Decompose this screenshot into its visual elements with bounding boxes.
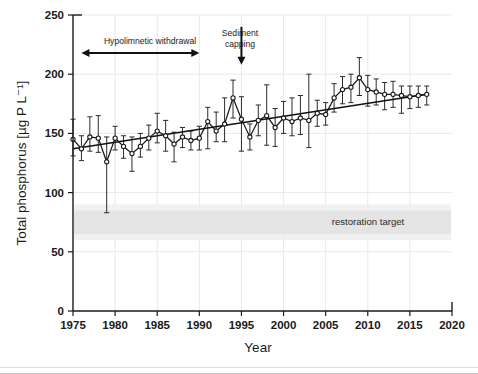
- x-tick-label: 2010: [355, 319, 381, 331]
- sediment-capping-label-line2: capping: [225, 39, 255, 49]
- data-point-marker: [307, 118, 311, 122]
- data-point-marker: [408, 95, 412, 99]
- chart-plot: 0501001502002501975198019851990199520002…: [0, 0, 478, 374]
- data-point-marker: [332, 96, 336, 100]
- data-point-marker: [130, 151, 134, 155]
- y-tick-label: 50: [51, 246, 64, 258]
- x-tick-label: 2020: [439, 319, 465, 331]
- chart-svg: 0501001502002501975198019851990199520002…: [0, 0, 478, 374]
- data-point-marker: [366, 87, 370, 91]
- data-point-marker: [138, 144, 142, 148]
- x-tick-label: 2000: [271, 319, 297, 331]
- x-tick-label: 1985: [144, 319, 170, 331]
- y-tick-label: 0: [58, 305, 64, 317]
- sediment-capping-label-line1: Sediment: [222, 28, 259, 38]
- data-point-marker: [180, 135, 184, 139]
- data-point-marker: [374, 90, 378, 94]
- data-point-marker: [273, 125, 277, 129]
- data-point-marker: [290, 119, 294, 123]
- data-point-marker: [121, 144, 125, 148]
- x-tick-label: 1980: [102, 319, 128, 331]
- data-point-marker: [147, 136, 151, 140]
- data-point-marker: [416, 93, 420, 97]
- data-point-marker: [281, 116, 285, 120]
- data-point-marker: [239, 117, 243, 121]
- data-point-marker: [399, 93, 403, 97]
- data-point-marker: [113, 136, 117, 140]
- x-tick-label: 2015: [397, 319, 423, 331]
- data-point-marker: [256, 118, 260, 122]
- data-point-marker: [189, 138, 193, 142]
- data-point-marker: [383, 92, 387, 96]
- data-point-marker: [79, 147, 83, 151]
- data-point-marker: [214, 129, 218, 133]
- x-tick-label: 2005: [313, 319, 339, 331]
- x-tick-label: 1995: [229, 319, 255, 331]
- data-point-marker: [172, 142, 176, 146]
- data-point-marker: [96, 136, 100, 140]
- data-point-marker: [357, 76, 361, 80]
- data-point-marker: [425, 92, 429, 96]
- hypolimnetic-withdrawal-label: Hypolimnetic withdrawal: [104, 36, 196, 46]
- data-point-marker: [265, 114, 269, 118]
- x-tick-label: 1990: [187, 319, 213, 331]
- y-tick-label: 150: [45, 127, 64, 139]
- y-tick-label: 250: [45, 9, 64, 21]
- data-point-marker: [340, 87, 344, 91]
- data-point-marker: [248, 135, 252, 139]
- x-axis-title: Year: [244, 340, 272, 355]
- data-point-marker: [197, 136, 201, 140]
- data-point-marker: [105, 160, 109, 164]
- restoration-target-label: restoration target: [332, 216, 405, 227]
- y-tick-label: 100: [45, 187, 64, 199]
- data-point-marker: [231, 96, 235, 100]
- data-point-marker: [391, 92, 395, 96]
- x-tick-label: 1975: [60, 319, 86, 331]
- y-axis-title: Total phosphorus [µg P L⁻¹]: [14, 81, 29, 246]
- data-point-marker: [315, 111, 319, 115]
- data-point-marker: [298, 116, 302, 120]
- data-point-marker: [164, 134, 168, 138]
- footer-divider-secondary: [0, 367, 478, 368]
- chart-background: [0, 0, 478, 374]
- data-point-marker: [324, 112, 328, 116]
- figure-container: 0501001502002501975198019851990199520002…: [0, 0, 478, 374]
- data-point-marker: [206, 119, 210, 123]
- data-point-marker: [223, 122, 227, 126]
- data-point-marker: [88, 135, 92, 139]
- data-point-marker: [349, 85, 353, 89]
- data-point-marker: [155, 129, 159, 133]
- y-tick-label: 200: [45, 68, 64, 80]
